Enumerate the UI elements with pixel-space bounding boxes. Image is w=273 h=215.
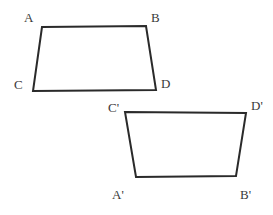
quadrilateral-abdc [33,26,156,91]
label-d-prime: D' [251,98,263,113]
label-d: D [161,76,170,91]
label-b-prime: B' [240,187,251,202]
label-a-prime: A' [112,187,124,202]
label-c-prime: C' [108,100,119,115]
quadrilateral-c-d-b-a-prime [125,112,246,177]
label-b: B [151,10,160,25]
label-c: C [14,77,23,92]
diagram-svg: A B C D C' D' A' B' [0,0,273,215]
label-a: A [24,10,34,25]
diagram-canvas: A B C D C' D' A' B' [0,0,273,215]
